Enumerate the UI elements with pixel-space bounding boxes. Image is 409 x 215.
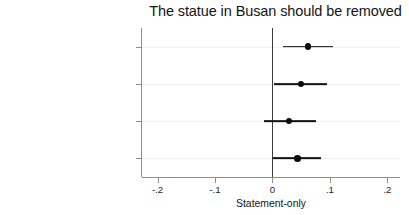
y-tick-mark (136, 47, 141, 48)
point-estimate-marker (298, 81, 305, 88)
x-tick-mark (330, 178, 331, 183)
x-tick-label: 0 (252, 184, 292, 196)
zero-reference-line (272, 28, 273, 177)
x-tick-mark (272, 178, 273, 183)
x-tick-label: .2 (367, 184, 407, 196)
chart-title: The statue in Busan should be removed (142, 2, 409, 20)
plot-area (142, 28, 400, 177)
point-estimate-marker (294, 155, 301, 162)
point-estimate-marker (286, 118, 293, 125)
x-tick-label: -.2 (138, 184, 178, 196)
gridline (142, 47, 400, 48)
x-tick-mark (215, 178, 216, 183)
x-axis-spine (142, 177, 400, 178)
x-axis-title: Statement-only (142, 197, 400, 210)
y-tick-mark (136, 84, 141, 85)
point-estimate-marker (305, 43, 312, 50)
x-tick-label: -.1 (195, 184, 235, 196)
gridline (142, 158, 400, 159)
gridline (142, 84, 400, 85)
x-tick-label: .1 (310, 184, 350, 196)
y-tick-mark (136, 158, 141, 159)
x-tick-mark (158, 178, 159, 183)
x-tick-mark (387, 178, 388, 183)
y-tick-mark (136, 121, 141, 122)
forest-plot-figure: The statue in Busan should be removed Co… (0, 0, 409, 215)
